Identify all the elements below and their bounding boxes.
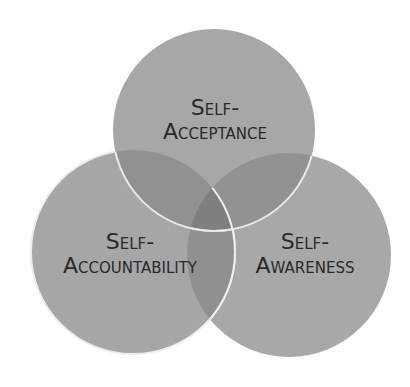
- label-self-awareness: Self- Awareness: [256, 230, 355, 278]
- label-self-accountability: Self- Accountability: [63, 230, 197, 278]
- label-line-1: Self-: [256, 230, 355, 254]
- label-line-1: Self-: [163, 96, 267, 120]
- label-line-2: Acceptance: [163, 120, 267, 144]
- label-line-2: Accountability: [63, 254, 197, 278]
- label-self-acceptance: Self- Acceptance: [163, 96, 267, 144]
- venn-diagram: [0, 0, 410, 387]
- label-line-2: Awareness: [256, 254, 355, 278]
- label-line-1: Self-: [63, 230, 197, 254]
